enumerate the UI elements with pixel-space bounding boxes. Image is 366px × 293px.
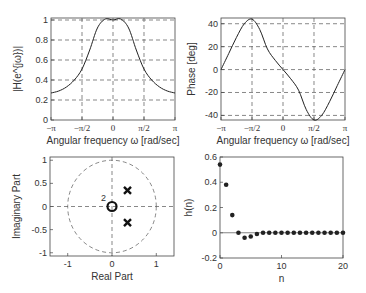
x-tick-label: 0 bbox=[109, 259, 114, 269]
x-tick-label: -1 bbox=[64, 259, 72, 269]
pole-zero-plot: -101-1-0.500.51Real PartImaginary Part2 bbox=[11, 155, 174, 282]
x-tick-label: π bbox=[173, 123, 178, 133]
x-tick-label: −π/2 bbox=[244, 123, 261, 133]
y-tick-label: 0 bbox=[212, 228, 217, 238]
y-tick-label: -20 bbox=[205, 87, 218, 97]
y-axis-label: Imaginary Part bbox=[11, 174, 22, 239]
y-tick-label: 0.6 bbox=[204, 152, 217, 162]
x-tick-label: π/2 bbox=[308, 123, 320, 133]
y-tick-label: -0.5 bbox=[31, 225, 47, 235]
sample-point bbox=[236, 230, 241, 235]
y-tick-label: 0.8 bbox=[35, 35, 48, 45]
sample-point bbox=[341, 230, 346, 235]
sample-point bbox=[316, 230, 321, 235]
sample-point bbox=[292, 230, 297, 235]
sample-point bbox=[218, 162, 223, 167]
zero-multiplicity-label: 2 bbox=[101, 193, 106, 203]
y-tick-label: 40 bbox=[208, 19, 218, 29]
x-tick-label: 20 bbox=[338, 261, 348, 271]
sample-point bbox=[285, 230, 290, 235]
sample-point bbox=[279, 230, 284, 235]
y-tick-label: 0 bbox=[213, 65, 218, 75]
y-tick-label: 1 bbox=[42, 155, 47, 165]
x-axis-label: Real Part bbox=[91, 271, 133, 282]
sample-point bbox=[261, 230, 266, 235]
y-tick-label: 0.2 bbox=[204, 203, 217, 213]
y-axis-label: |H(e^{jω})| bbox=[12, 46, 23, 92]
x-axis-label: n bbox=[279, 273, 285, 284]
sample-point bbox=[267, 230, 272, 235]
y-tick-label: 0 bbox=[43, 115, 48, 125]
y-tick-label: 0.4 bbox=[204, 177, 217, 187]
sample-point bbox=[304, 230, 309, 235]
x-tick-label: 0 bbox=[111, 123, 116, 133]
sample-point bbox=[230, 213, 235, 218]
axes-frame bbox=[220, 157, 343, 258]
x-tick-label: π bbox=[343, 123, 348, 133]
y-tick-label: 20 bbox=[208, 42, 218, 52]
sample-point bbox=[255, 232, 260, 237]
sample-point bbox=[322, 230, 327, 235]
sample-point bbox=[335, 230, 340, 235]
y-axis-label: Phase [deg] bbox=[186, 42, 197, 96]
y-tick-label: 0.4 bbox=[35, 75, 48, 85]
y-tick-label: -40 bbox=[205, 110, 218, 120]
x-tick-label: 1 bbox=[154, 259, 159, 269]
y-axis-label: h(n) bbox=[183, 199, 194, 217]
sample-point bbox=[224, 182, 229, 187]
x-tick-label: −π/2 bbox=[74, 123, 91, 133]
sample-point bbox=[328, 230, 333, 235]
pole-marker bbox=[124, 219, 131, 226]
impulse-response-plot: 01020-0.200.20.40.6nh(n) bbox=[183, 152, 348, 284]
pole-marker bbox=[124, 187, 131, 194]
x-axis-label: Angular frequency ω [rad/sec] bbox=[47, 135, 180, 146]
y-tick-label: 0.5 bbox=[34, 178, 47, 188]
y-tick-label: 0.2 bbox=[35, 95, 48, 105]
magnitude-response-plot: −π−π/20π/2π00.20.40.60.81Angular frequen… bbox=[12, 15, 180, 146]
sample-point bbox=[273, 230, 278, 235]
x-tick-label: 0 bbox=[217, 261, 222, 271]
sample-point bbox=[242, 236, 247, 241]
x-tick-label: π/2 bbox=[138, 123, 150, 133]
y-tick-label: 1 bbox=[43, 15, 48, 25]
y-tick-label: 0 bbox=[42, 202, 47, 212]
x-tick-label: 10 bbox=[276, 261, 286, 271]
x-tick-label: 0 bbox=[281, 123, 286, 133]
x-tick-label: −π bbox=[216, 123, 226, 133]
sample-point bbox=[298, 230, 303, 235]
y-tick-label: -1 bbox=[39, 248, 47, 258]
x-axis-label: Angular frequency ω [rad/sec] bbox=[217, 135, 350, 146]
sample-point bbox=[310, 230, 315, 235]
sample-point bbox=[248, 234, 253, 239]
phase-response-plot: −π−π/20π/2π-40-2002040Angular frequency … bbox=[186, 18, 350, 146]
y-tick-label: -0.2 bbox=[201, 253, 217, 263]
figure: −π−π/20π/2π00.20.40.60.81Angular frequen… bbox=[0, 0, 366, 293]
y-tick-label: 0.6 bbox=[35, 55, 48, 65]
